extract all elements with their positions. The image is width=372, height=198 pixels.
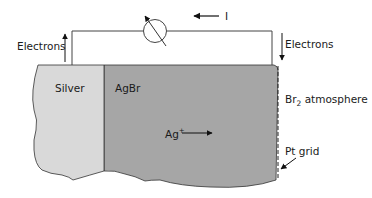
circuit-wire (72, 31, 272, 65)
ag-ion-charge: + (179, 127, 185, 135)
electrons-right-label: Electrons (285, 39, 334, 50)
pt-grid-pointer-icon (281, 158, 296, 169)
agbr-label: AgBr (115, 83, 140, 94)
br2-atmosphere-label: Br2 atmosphere (285, 94, 368, 108)
br2-suffix: atmosphere (301, 93, 367, 105)
electrons-left-label: Electrons (17, 41, 66, 52)
silver-label: Silver (55, 83, 85, 94)
pt-grid-label: Pt grid (285, 146, 319, 157)
ag-ion-label: Ag+ (165, 128, 185, 140)
electrochemical-cell-diagram: I Electrons Electrons Silver AgBr Ag+ Br… (0, 0, 372, 198)
current-label: I (225, 11, 228, 22)
br2-symbol: Br (285, 93, 297, 105)
ag-ion-symbol: Ag (165, 128, 179, 140)
galvanometer-icon (144, 16, 167, 46)
